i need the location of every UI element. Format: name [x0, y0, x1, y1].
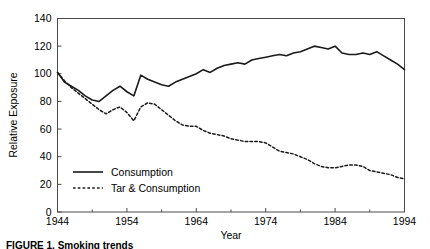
x-tick-label: 1994 [393, 215, 417, 227]
x-axis-tick-labels: 194419541964197419841994 [46, 215, 417, 227]
x-tick-label: 1944 [46, 215, 70, 227]
data-series-group [58, 46, 405, 179]
x-tick-label: 1974 [254, 215, 278, 227]
x-tick-label: 1964 [185, 215, 209, 227]
y-tick-label: 40 [40, 150, 52, 162]
y-tick-label: 120 [34, 40, 52, 52]
y-axis-title: Relative Exposure [7, 72, 19, 157]
chart-legend: ConsumptionTar & Consumption [73, 166, 200, 194]
plot-frame [58, 19, 405, 213]
y-tick-label: 100 [34, 67, 52, 79]
y-tick-label: 60 [40, 123, 52, 135]
y-tick-label: 80 [40, 95, 52, 107]
x-tick-label: 1954 [115, 215, 139, 227]
figure-caption: FIGURE 1. Smoking trends [6, 240, 430, 249]
x-tick-label: 1984 [323, 215, 347, 227]
legend-label-1: Consumption [111, 166, 173, 178]
y-axis-tick-labels: 020406080100120140 [34, 12, 52, 218]
series-line-2 [58, 72, 405, 178]
figure-container: 020406080100120140 194419541964197419841… [0, 0, 430, 249]
legend-label-2: Tar & Consumption [111, 182, 200, 194]
y-tick-label: 140 [34, 12, 52, 24]
series-line-1 [58, 46, 405, 101]
line-chart: 020406080100120140 194419541964197419841… [0, 0, 430, 249]
y-tick-label: 20 [40, 178, 52, 190]
y-axis-ticks [58, 19, 62, 213]
